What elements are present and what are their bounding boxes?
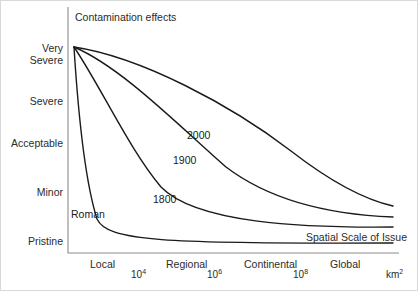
x-axis-unit-exponent: 2 (399, 268, 403, 275)
x-axis-tick-10e6-exponent: 6 (218, 268, 222, 275)
x-axis-tick-10e6: 106 (207, 268, 222, 280)
chart-plot-area (1, 1, 418, 291)
axis-frame (68, 7, 399, 253)
x-axis-tick-10e6-base: 10 (207, 269, 218, 280)
x-axis-tick-10e8-base: 10 (293, 269, 304, 280)
figure-container: Very Severe Severe Acceptable Minor Pris… (0, 0, 418, 291)
curve-label-1800: 1800 (153, 193, 176, 205)
x-axis-label-global: Global (330, 258, 360, 270)
x-axis-tick-10e4-base: 10 (131, 269, 142, 280)
x-axis-tick-10e8-exponent: 8 (304, 268, 308, 275)
x-axis-tick-10e4-exponent: 4 (142, 268, 146, 275)
x-axis-label-local: Local (90, 258, 115, 270)
curve-label-roman: Roman (71, 208, 105, 220)
x-axis-unit-label: km2 (386, 268, 403, 280)
x-axis-label-continental: Continental (244, 258, 297, 270)
curve-2000 (74, 47, 393, 206)
curve-1800 (74, 47, 393, 227)
curve-label-1900: 1900 (173, 154, 196, 166)
x-axis-tick-10e4: 104 (131, 268, 146, 280)
x-axis-tick-10e8: 108 (293, 268, 308, 280)
curve-1900 (74, 47, 393, 217)
x-axis-unit-base: km (386, 269, 399, 280)
curve-label-2000: 2000 (187, 129, 210, 141)
x-axis-label-regional: Regional (166, 258, 207, 270)
